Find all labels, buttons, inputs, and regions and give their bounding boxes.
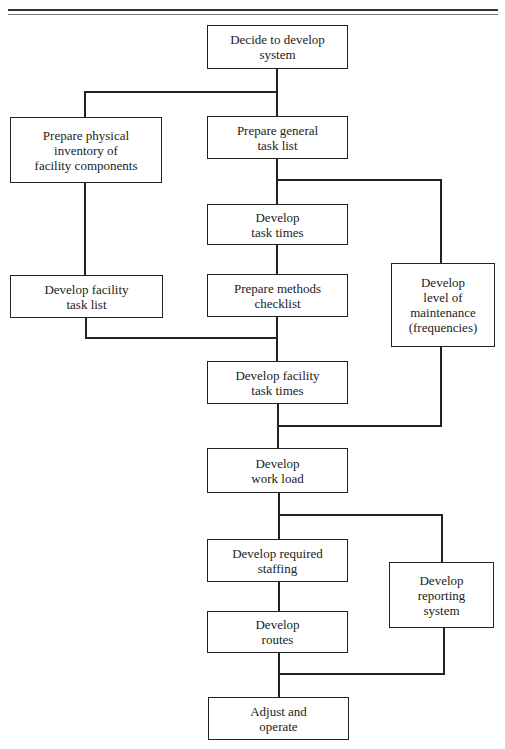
- node-inventory: Prepare physical inventory of facility c…: [10, 117, 162, 183]
- node-label: Develop work load: [251, 456, 303, 486]
- node-decide: Decide to develop system: [207, 25, 348, 69]
- node-label: Adjust and operate: [250, 704, 307, 734]
- connector: [84, 91, 86, 118]
- connector: [278, 581, 280, 612]
- connector: [278, 652, 280, 698]
- node-label: Develop level of maintenance (frequencie…: [409, 275, 478, 335]
- connector: [84, 182, 86, 276]
- node-label: Prepare general task list: [237, 123, 318, 153]
- connector: [441, 514, 443, 563]
- node-label: Develop required staffing: [232, 546, 323, 576]
- connector: [276, 179, 442, 181]
- node-label: Prepare methods checklist: [234, 281, 321, 311]
- node-label: Develop reporting system: [418, 573, 466, 618]
- node-maintenance-level: Develop level of maintenance (frequencie…: [391, 263, 495, 347]
- node-reporting-system: Develop reporting system: [389, 562, 494, 628]
- node-label: Develop routes: [255, 617, 299, 647]
- connector: [276, 158, 278, 205]
- node-work-load: Develop work load: [207, 448, 348, 493]
- node-adjust-operate: Adjust and operate: [208, 697, 349, 740]
- node-label: Develop facility task times: [235, 368, 319, 398]
- connector: [84, 91, 278, 93]
- node-methods-checklist: Prepare methods checklist: [207, 274, 348, 317]
- connector: [443, 627, 445, 675]
- node-label: Decide to develop system: [230, 32, 325, 62]
- node-required-staffing: Develop required staffing: [207, 539, 348, 582]
- node-general-tasks: Prepare general task list: [207, 116, 348, 159]
- node-label: Develop facility task list: [44, 282, 128, 312]
- connector: [440, 346, 442, 427]
- node-label: Develop task times: [251, 210, 303, 240]
- node-facility-task-times: Develop facility task times: [207, 361, 348, 404]
- top-rule-thin: [8, 14, 498, 15]
- connector: [278, 673, 445, 675]
- connector: [276, 244, 278, 275]
- connector: [85, 337, 278, 339]
- node-facility-task-list: Develop facility task list: [10, 275, 163, 318]
- node-routes: Develop routes: [207, 611, 348, 653]
- connector: [278, 492, 280, 540]
- node-label: Prepare physical inventory of facility c…: [35, 128, 138, 173]
- connector: [85, 317, 87, 339]
- connector: [278, 514, 443, 516]
- connector: [440, 179, 442, 264]
- top-rule-thick: [8, 9, 498, 11]
- connector: [277, 403, 279, 449]
- connector: [277, 425, 442, 427]
- connector: [276, 316, 278, 363]
- node-task-times: Develop task times: [207, 204, 348, 245]
